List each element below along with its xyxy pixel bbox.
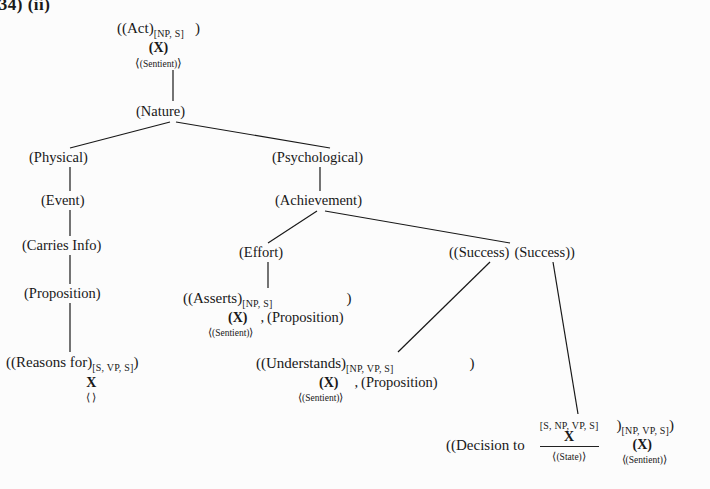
node-success-right: (Success)) bbox=[509, 244, 574, 260]
node-asserts-feature-close: ⟩ bbox=[249, 326, 253, 338]
node-act-feature: (Sentient) bbox=[140, 59, 177, 69]
node-act-subscript: [NP, S] bbox=[154, 28, 184, 39]
node-asserts-arg-separator: , bbox=[247, 309, 264, 325]
node-decision-to-numerator: X bbox=[540, 430, 599, 445]
node-asserts-feature: (Sentient) bbox=[212, 328, 249, 338]
node-proposition: (Proposition) bbox=[24, 286, 101, 301]
node-act: ((Act)[NP, S]) (X) ⟨(Sentient)⟩ bbox=[117, 20, 200, 71]
node-psychological: (Psychological) bbox=[272, 150, 363, 165]
node-act-feature-close: ⟩ bbox=[177, 56, 182, 70]
syntax-tree-diagram: .34) (ii) ((Act)[NP, S]) (X) ⟨(Sentient)… bbox=[0, 0, 710, 489]
node-reasons-for-tail: ) bbox=[134, 354, 139, 370]
node-carries-info: (Carries Info) bbox=[22, 238, 101, 253]
node-understands-feature-close: ⟩ bbox=[339, 391, 343, 403]
node-decision-to-close-subscript: [NP, VP, S] bbox=[622, 425, 670, 436]
node-reasons-for-label: ((Reasons for) bbox=[6, 354, 92, 370]
tree-edges bbox=[0, 0, 710, 489]
node-act-label: ((Act) bbox=[117, 20, 154, 36]
node-understands: ((Understands)[NP, VP, S]) (X),(Proposit… bbox=[256, 355, 475, 405]
node-understands-feature: (Sentient) bbox=[302, 393, 339, 403]
node-asserts: ((Asserts)[NP, S]) (X),(Proposition) ⟨(S… bbox=[183, 290, 351, 340]
edge-nature-to-psychological bbox=[176, 122, 330, 148]
node-decision-to-denominator: (State) bbox=[556, 452, 581, 462]
node-decision-to: ((Decision to [S, NP, VP, S] X ⟨(State)⟩… bbox=[446, 417, 674, 467]
node-understands-label: ((Understands) bbox=[256, 355, 346, 371]
edge-nature-to-physical bbox=[70, 122, 170, 148]
node-act-tail: ) bbox=[184, 20, 200, 36]
node-act-variable: (X) bbox=[149, 40, 168, 55]
node-decision-to-feature: (Sentient) bbox=[626, 455, 663, 465]
node-event: (Event) bbox=[41, 193, 84, 208]
edge-achievement-to-success bbox=[325, 211, 510, 243]
node-understands-arg-separator: , bbox=[338, 374, 358, 390]
edge-achievement-to-effort bbox=[268, 211, 317, 243]
node-decision-to-fraction: [S, NP, VP, S] X ⟨(State)⟩ bbox=[538, 421, 601, 464]
figure-caption: .34) (ii) bbox=[0, 0, 50, 15]
node-understands-tail: ) bbox=[394, 355, 475, 371]
node-understands-variable: (X) bbox=[319, 375, 338, 390]
node-decision-to-feature-close: ⟩ bbox=[663, 453, 667, 465]
node-reasons-for-variable: X bbox=[86, 375, 96, 390]
node-decision-to-prefix: ((Decision to bbox=[446, 431, 525, 454]
node-asserts-arg: (Proposition) bbox=[264, 309, 344, 325]
node-asserts-variable: (X) bbox=[228, 310, 247, 325]
node-understands-subscript: [NP, VP, S] bbox=[346, 363, 394, 374]
node-achievement: (Achievement) bbox=[275, 193, 362, 208]
node-decision-to-close-tail: ) bbox=[669, 417, 674, 433]
node-reasons-for: ((Reasons for)[S, VP, S]) X ⟨ ⟩ bbox=[6, 354, 139, 405]
node-decision-to-fraction-bar: ⟨(State)⟩ bbox=[540, 446, 599, 464]
node-reasons-for-feature-close: ⟩ bbox=[92, 391, 96, 403]
edge-success2-to-decision bbox=[553, 262, 578, 414]
node-effort: (Effort) bbox=[239, 245, 283, 260]
node-nature: (Nature) bbox=[136, 104, 185, 119]
node-success-left: ((Success) bbox=[449, 244, 509, 260]
node-asserts-label: ((Asserts) bbox=[183, 290, 242, 306]
node-decision-to-denominator-close: ⟩ bbox=[582, 450, 586, 462]
node-asserts-subscript: [NP, S] bbox=[242, 298, 272, 309]
edge-success1-to-understands bbox=[398, 262, 490, 352]
node-reasons-for-subscript: [S, VP, S] bbox=[92, 362, 133, 373]
node-success-pair: ((Success)(Success)) bbox=[449, 245, 575, 260]
node-understands-arg: (Proposition) bbox=[358, 374, 438, 390]
node-physical: (Physical) bbox=[29, 150, 88, 165]
node-decision-to-variable: (X) bbox=[633, 437, 652, 452]
node-asserts-tail: ) bbox=[272, 290, 351, 306]
